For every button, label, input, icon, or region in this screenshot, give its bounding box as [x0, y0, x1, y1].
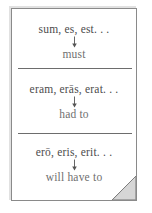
section-divider	[18, 133, 132, 134]
latin-forms-imperfect: eram, erās, erat. . .	[12, 83, 136, 96]
reference-card: sum, es, est. . . must eram, erās, erat.…	[0, 0, 152, 213]
conjugation-block-imperfect: eram, erās, erat. . . had to	[12, 83, 136, 121]
page-fold-corner-icon	[111, 175, 137, 201]
down-arrow-icon	[12, 159, 136, 171]
translation-imperfect: had to	[12, 108, 136, 121]
down-arrow-icon	[12, 36, 136, 48]
conjugation-block-present: sum, es, est. . . must	[12, 23, 136, 61]
latin-forms-present: sum, es, est. . .	[12, 23, 136, 36]
translation-present: must	[12, 48, 136, 61]
latin-forms-future: erō, eris, erit. . .	[12, 146, 136, 159]
paper-sheet: sum, es, est. . . must eram, erās, erat.…	[11, 8, 137, 201]
down-arrow-icon	[12, 96, 136, 108]
section-divider	[18, 68, 132, 69]
